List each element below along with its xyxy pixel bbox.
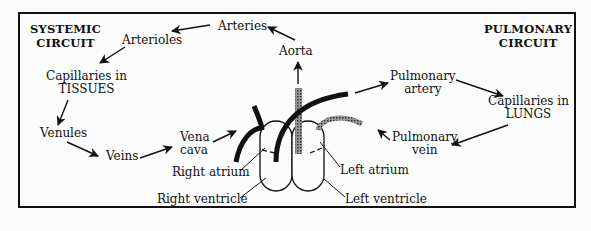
arrow-arteries-to-arterioles xyxy=(172,25,210,31)
heart xyxy=(260,121,324,191)
arrow-lungs-to-pulmonary-vein xyxy=(452,125,508,145)
aorta-vessel xyxy=(295,88,302,154)
inferior-vena-cava xyxy=(236,128,262,162)
arrow-venules-to-veins xyxy=(67,142,98,156)
arrow-capillaries-to-venules xyxy=(58,100,68,125)
diagram-artwork xyxy=(0,0,591,231)
arrow-veins-to-vena-cava xyxy=(140,147,172,158)
arrow-arterioles-to-capillaries xyxy=(100,47,125,63)
pulmonary-vein-vessel xyxy=(318,118,362,130)
arrow-vena-cava-to-heart xyxy=(213,131,236,142)
arrow-pulmonary-vein-to-heart xyxy=(378,130,390,140)
arrow-to-pulmonary-artery xyxy=(355,83,388,93)
arrow-aorta-to-arteries xyxy=(268,27,295,40)
arrow-pulmonary-artery-to-lungs xyxy=(456,80,503,96)
